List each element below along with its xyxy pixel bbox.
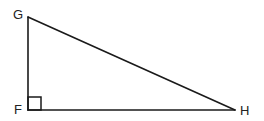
vertex-label-g: G [13, 7, 23, 22]
side-gh [28, 17, 235, 110]
triangle-sides [28, 17, 235, 110]
right-angle-marker [28, 97, 41, 110]
vertex-label-h: H [240, 103, 249, 118]
vertex-label-f: F [14, 102, 22, 117]
right-triangle-diagram: G F H [0, 0, 264, 121]
